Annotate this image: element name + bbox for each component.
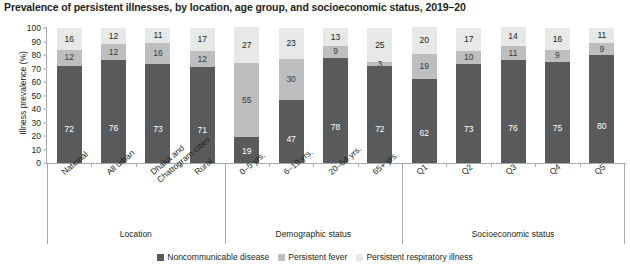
- group-label: Socioeconomic status: [472, 229, 555, 239]
- bar-value-label: 12: [109, 32, 118, 41]
- bar-segment[interactable]: 9: [545, 50, 570, 62]
- plot-area: 1612721212761116731712712755192330471397…: [47, 28, 624, 163]
- bar-segment[interactable]: 16: [145, 43, 170, 65]
- bar-segment[interactable]: 12: [101, 28, 126, 44]
- bar-stack[interactable]: 16975: [545, 28, 570, 163]
- bar-value-label: 17: [464, 35, 473, 44]
- bar-segment[interactable]: 17: [190, 28, 215, 51]
- bar-stack[interactable]: 275519: [234, 27, 259, 163]
- bar-stack[interactable]: 201962: [412, 27, 437, 163]
- bar-segment[interactable]: 11: [501, 46, 526, 61]
- bar-value-label: 9: [333, 47, 338, 56]
- x-axis-tick-label: Q2: [460, 163, 475, 178]
- bar-segment[interactable]: 12: [57, 50, 82, 66]
- bar-segment[interactable]: 12: [101, 44, 126, 60]
- bar-value-label: 12: [109, 48, 118, 57]
- page-title: Prevalence of persistent illnesses, by l…: [4, 1, 466, 13]
- x-axis-tick-label: Q1: [415, 163, 430, 178]
- bar-value-label: 55: [242, 96, 251, 105]
- x-axis-tick-label: Q4: [548, 163, 563, 178]
- bar-segment[interactable]: 9: [589, 43, 614, 55]
- y-axis-tick-label: 20: [32, 131, 41, 141]
- bar-value-label: 75: [553, 124, 562, 133]
- bar-stack[interactable]: 233047: [279, 28, 304, 163]
- bar-value-label: 19: [242, 147, 251, 156]
- bar-stack[interactable]: 141176: [501, 27, 526, 163]
- bar-value-label: 72: [64, 125, 73, 134]
- x-axis-tick-mark: [580, 163, 581, 167]
- bar-value-label: 12: [64, 53, 73, 62]
- bar-value-label: 13: [331, 33, 340, 42]
- group-separator: [402, 164, 403, 244]
- group-separator: [624, 164, 625, 244]
- bar-segment[interactable]: 13: [323, 28, 348, 46]
- y-axis-tick-label: 70: [32, 64, 41, 74]
- bar-value-label: 78: [331, 123, 340, 132]
- bar-segment[interactable]: 76: [101, 60, 126, 163]
- y-axis-ticks: 0102030405060708090100: [0, 22, 45, 163]
- bar-stack[interactable]: 171073: [456, 28, 481, 163]
- x-axis-tick-mark: [491, 163, 492, 167]
- bar-value-label: 17: [198, 35, 207, 44]
- bar-segment[interactable]: 16: [545, 28, 570, 50]
- bar-value-label: 47: [286, 135, 295, 144]
- bar-value-label: 11: [154, 31, 163, 40]
- bar-segment[interactable]: 11: [589, 28, 614, 43]
- bar-value-label: 19: [420, 62, 429, 71]
- bar-stack[interactable]: 11980: [589, 28, 614, 163]
- bar-segment[interactable]: 73: [145, 64, 170, 163]
- bar-segment[interactable]: 72: [367, 66, 392, 163]
- bar-segment[interactable]: 76: [501, 60, 526, 163]
- x-axis-tick-mark: [446, 163, 447, 167]
- bar-stack[interactable]: 25372: [367, 28, 392, 163]
- x-axis-tick-label: Q3: [504, 163, 519, 178]
- bar-value-label: 76: [508, 124, 517, 133]
- bar-value-label: 73: [153, 125, 162, 134]
- bar-segment[interactable]: 16: [57, 28, 82, 50]
- bar-segment[interactable]: 23: [279, 28, 304, 59]
- bar-stack[interactable]: 121276: [101, 28, 126, 163]
- legend-swatch: [157, 254, 164, 261]
- y-axis-tick-label: 80: [32, 50, 41, 60]
- bar-value-label: 73: [464, 125, 473, 134]
- legend-item[interactable]: Persistent respiratory illness: [356, 252, 472, 262]
- x-axis-tick-mark: [269, 163, 270, 167]
- bar-value-label: 25: [375, 41, 384, 50]
- bar-value-label: 76: [109, 124, 118, 133]
- bar-segment[interactable]: 10: [456, 51, 481, 65]
- legend-label: Persistent respiratory illness: [366, 252, 472, 262]
- bar-stack[interactable]: 13978: [323, 28, 348, 163]
- bar-segment[interactable]: 55: [234, 63, 259, 137]
- bar-segment[interactable]: 9: [323, 46, 348, 58]
- legend-item[interactable]: Noncommunicable disease: [157, 252, 269, 262]
- group-separator: [225, 164, 226, 244]
- bar-segment[interactable]: 73: [456, 64, 481, 163]
- bar-segment[interactable]: 72: [57, 66, 82, 163]
- legend-item[interactable]: Persistent fever: [278, 252, 347, 262]
- bar-segment[interactable]: 75: [545, 62, 570, 163]
- legend-swatch: [356, 254, 363, 261]
- group-separator: [47, 164, 48, 244]
- bar-segment[interactable]: 11: [145, 28, 170, 43]
- group-label: Location: [120, 229, 152, 239]
- bar-segment[interactable]: 78: [323, 58, 348, 163]
- bar-segment[interactable]: 80: [589, 55, 614, 163]
- bar-segment[interactable]: 27: [234, 27, 259, 63]
- bar-segment[interactable]: 14: [501, 27, 526, 46]
- y-axis-tick-label: 10: [32, 145, 41, 155]
- y-axis-tick-label: 40: [32, 104, 41, 114]
- x-axis-tick-mark: [313, 163, 314, 167]
- x-axis-tick-mark: [136, 163, 137, 167]
- bar-segment[interactable]: 62: [412, 79, 437, 163]
- bar-segment[interactable]: 20: [412, 27, 437, 54]
- bar-stack[interactable]: 111673: [145, 28, 170, 163]
- bar-segment[interactable]: 19: [412, 54, 437, 80]
- bar-segment[interactable]: 25: [367, 28, 392, 62]
- bar-value-label: 16: [153, 49, 162, 58]
- bar-segment[interactable]: 12: [190, 51, 215, 67]
- bar-segment[interactable]: 17: [456, 28, 481, 51]
- bar-value-label: 16: [64, 35, 73, 44]
- bar-segment[interactable]: 30: [279, 59, 304, 100]
- y-axis-tick-label: 60: [32, 77, 41, 87]
- bar-stack[interactable]: 161272: [57, 28, 82, 163]
